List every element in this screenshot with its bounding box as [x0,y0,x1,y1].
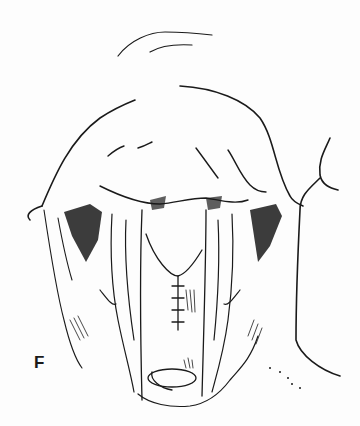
line-drawing [0,0,360,426]
neck-contour [296,138,340,376]
hatching [70,290,262,368]
shaded-muscle [64,196,282,262]
panel-label: F [34,354,44,371]
stipple [269,367,301,389]
tissue-edges [100,142,266,204]
trachea [141,210,207,400]
skin-flap [28,86,303,220]
head-outline [118,32,212,56]
surgical-illustration: F [0,0,360,426]
